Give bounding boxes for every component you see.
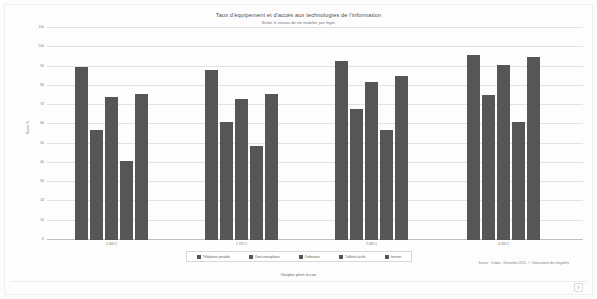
legend-swatch-icon bbox=[339, 255, 343, 259]
y-axis-title: Score % bbox=[26, 121, 30, 134]
y-axis-tick-label: 110 bbox=[39, 25, 44, 29]
x-axis-group-label: 1 725 € bbox=[205, 242, 278, 246]
bar bbox=[120, 161, 133, 240]
bar bbox=[250, 146, 263, 240]
y-axis-tick-label: 40 bbox=[40, 160, 44, 164]
source-note: Source : Crédoc - Décembre 2015 - © Obse… bbox=[479, 261, 570, 265]
y-axis-tick-label: 100 bbox=[38, 44, 44, 48]
legend-label: Internet bbox=[391, 255, 402, 259]
legend-item[interactable]: Ordinateur bbox=[299, 255, 320, 259]
y-axis-tick-label: 80 bbox=[40, 83, 44, 87]
plot-area: 0102030405060708090100110 1 000 €1 725 €… bbox=[47, 28, 583, 240]
bar bbox=[512, 122, 525, 240]
bar bbox=[135, 94, 148, 240]
figure-caption: Graphe plein écran bbox=[0, 272, 597, 277]
bar bbox=[482, 95, 495, 240]
legend-label: Dont smartphone bbox=[255, 255, 279, 259]
y-axis-tick-label: 0 bbox=[42, 237, 44, 241]
y-axis-tick-label: 60 bbox=[40, 121, 44, 125]
chart-title: Taux d'équipement et d'accès aux technol… bbox=[0, 12, 597, 18]
y-axis-tick-label: 10 bbox=[40, 218, 44, 222]
bar bbox=[235, 99, 248, 240]
bar bbox=[205, 70, 218, 240]
chart-subtitle: Selon le niveau de vie mobilier par foye… bbox=[0, 20, 597, 25]
legend-label: Téléphone portable bbox=[203, 255, 230, 259]
y-axis-tick-label: 90 bbox=[40, 64, 44, 68]
bar bbox=[497, 65, 510, 240]
x-axis-group-label: 4 230 € bbox=[467, 242, 540, 246]
bar bbox=[220, 122, 233, 240]
legend-swatch-icon bbox=[299, 255, 303, 259]
legend-swatch-icon bbox=[197, 255, 201, 259]
bars-layer: 1 000 €1 725 €2 635 €4 230 € bbox=[47, 28, 583, 240]
bar-group: 1 000 € bbox=[75, 28, 148, 240]
bar bbox=[265, 94, 278, 240]
x-axis-group-label: 2 635 € bbox=[335, 242, 408, 246]
bar-group: 1 725 € bbox=[205, 28, 278, 240]
bar bbox=[365, 82, 378, 240]
footer-divider bbox=[10, 281, 587, 282]
legend-swatch-icon bbox=[385, 255, 389, 259]
bar bbox=[380, 130, 393, 240]
legend-label: Ordinateur bbox=[305, 255, 320, 259]
x-axis-group-label: 1 000 € bbox=[75, 242, 148, 246]
legend-item[interactable]: Dont smartphone bbox=[249, 255, 279, 259]
legend-swatch-icon bbox=[249, 255, 253, 259]
legend-item[interactable]: Tablette tactile bbox=[339, 255, 365, 259]
y-axis-tick-label: 20 bbox=[40, 198, 44, 202]
scanned-page: · · Taux d'équipement et d'accès aux tec… bbox=[0, 0, 597, 299]
bar bbox=[90, 130, 103, 240]
bar bbox=[75, 67, 88, 240]
bar bbox=[105, 97, 118, 240]
legend-label: Tablette tactile bbox=[345, 255, 365, 259]
bar bbox=[395, 76, 408, 240]
legend-item[interactable]: Téléphone portable bbox=[197, 255, 230, 259]
y-axis-tick-label: 70 bbox=[40, 102, 44, 106]
bar bbox=[350, 109, 363, 240]
bar bbox=[527, 57, 540, 240]
page-number-badge: 8 bbox=[574, 283, 583, 292]
y-axis-tick-label: 30 bbox=[40, 179, 44, 183]
chart-legend: Téléphone portableDont smartphoneOrdinat… bbox=[186, 251, 412, 262]
legend-item[interactable]: Internet bbox=[385, 255, 402, 259]
y-axis-tick-label: 50 bbox=[40, 141, 44, 145]
bar bbox=[467, 55, 480, 240]
bar bbox=[335, 61, 348, 240]
bar-group: 2 635 € bbox=[335, 28, 408, 240]
bar-group: 4 230 € bbox=[467, 28, 540, 240]
